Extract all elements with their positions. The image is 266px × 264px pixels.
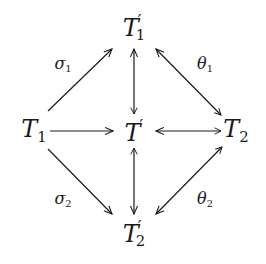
edge-label-theta1: θ1 [197, 56, 213, 74]
node-t-prime: T′ [125, 117, 144, 144]
commutative-diagram: T′1 T1 T′ T2 T′2 σ1 θ1 σ2 θ2 [0, 0, 266, 264]
label-subscript: 1 [207, 63, 213, 74]
node-subscript: 1 [136, 27, 145, 45]
label-symbol: σ [54, 54, 65, 73]
node-t2: T2 [223, 117, 248, 145]
label-symbol: θ [197, 54, 207, 73]
node-subscript: 1 [37, 128, 46, 146]
edge-label-theta2: θ2 [197, 191, 213, 209]
node-subscript: 2 [136, 233, 145, 251]
prime-mark: ′ [140, 115, 144, 135]
node-t1-prime: T′1 [123, 12, 145, 43]
label-subscript: 2 [65, 198, 71, 209]
edge-label-sigma1: σ1 [54, 56, 71, 74]
node-t1: T1 [21, 117, 46, 145]
node-base: T [223, 115, 239, 143]
node-subscript: 2 [239, 128, 248, 146]
label-subscript: 2 [207, 198, 213, 209]
label-subscript: 1 [65, 63, 71, 74]
node-t2-prime: T′2 [123, 218, 145, 249]
edge-label-sigma2: σ2 [54, 191, 71, 209]
label-symbol: σ [54, 189, 65, 208]
node-base: T [125, 119, 141, 147]
label-symbol: θ [197, 189, 207, 208]
node-base: T [21, 115, 37, 143]
